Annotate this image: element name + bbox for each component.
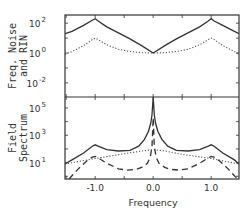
y-tick-label: 100: [29, 46, 46, 59]
y-axis-title: Freq. Noise: [7, 23, 18, 89]
figure: 10210010-2Freq. Noiseand RIN105103101Fie…: [0, 0, 252, 210]
y-axis-title: and RIN: [18, 35, 29, 77]
x-tick-label: -1.0: [86, 183, 104, 193]
sideband-carrier-components-curve: [69, 118, 237, 180]
x-axis-title: Frequency: [129, 197, 178, 208]
top-panel-freq-noise-rin: [65, 15, 239, 97]
y-axis-title: Spectrum: [18, 114, 29, 162]
bottom-panel-field-spectrum: [65, 97, 239, 179]
y-tick-label: 101: [29, 156, 46, 169]
plot-frame: [65, 15, 239, 179]
x-tick-label: 1.0: [204, 183, 219, 193]
total-field-spectrum-curve: [65, 97, 239, 164]
x-tick-label: 0.0: [146, 183, 161, 193]
frequency-noise-curve: [65, 19, 239, 53]
y-tick-label: 10-2: [27, 76, 46, 89]
y-tick-label: 102: [29, 16, 46, 29]
y-tick-label: 105: [29, 101, 46, 114]
y-tick-label: 103: [29, 128, 46, 141]
y-axis-title: Field: [7, 123, 18, 153]
